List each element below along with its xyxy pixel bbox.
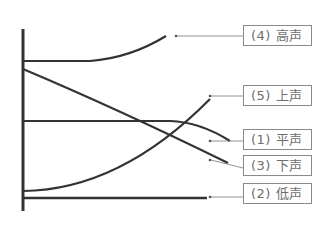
label-high-tone: (4) 高声 (243, 25, 312, 46)
label-level-tone: (1) 平声 (243, 129, 312, 150)
curve-falling-tone (23, 69, 228, 163)
leader-falling (209, 159, 243, 168)
curve-rising-tone (23, 99, 210, 191)
leader-high (175, 35, 243, 38)
leader-low (209, 196, 243, 199)
label-low-tone: (2) 低声 (243, 183, 312, 204)
leader-rising (209, 95, 243, 98)
label-falling-tone: (3) 下声 (243, 155, 312, 176)
leader-level (209, 140, 243, 143)
curve-high-tone (23, 36, 166, 61)
label-rising-tone: (5) 上声 (243, 85, 312, 106)
curve-level-tone (23, 121, 230, 141)
